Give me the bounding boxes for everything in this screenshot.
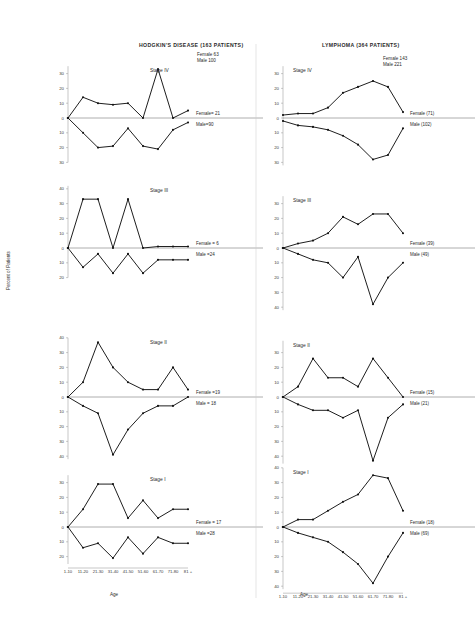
- data-point-female: [157, 245, 159, 247]
- series-line-female: [68, 484, 188, 527]
- data-point-female: [112, 104, 114, 106]
- data-point-male: [297, 124, 299, 126]
- data-point-female: [387, 377, 389, 379]
- y-tick-label: 0: [277, 395, 280, 400]
- data-point-female: [342, 501, 344, 503]
- y-tick-label: 30: [59, 350, 64, 355]
- data-point-female: [357, 386, 359, 388]
- data-point-female: [127, 517, 129, 519]
- male-count-label: Male (21): [410, 401, 430, 406]
- data-point-male: [387, 277, 389, 279]
- y-tick-label: 40: [274, 305, 279, 310]
- stage-label: Stage II: [150, 340, 167, 345]
- y-tick-label: 0: [62, 246, 65, 251]
- series-line-male: [68, 397, 188, 455]
- data-point-male: [82, 266, 84, 268]
- stage-label: Stage I: [293, 470, 309, 475]
- data-point-female: [402, 111, 404, 113]
- data-point-male: [187, 259, 189, 261]
- y-tick-label: 30: [274, 71, 279, 76]
- data-point-male: [282, 120, 284, 122]
- data-point-male: [372, 460, 374, 462]
- x-tick-label: 81 +: [399, 594, 408, 599]
- data-point-female: [372, 213, 374, 215]
- y-tick-label: 20: [274, 365, 279, 370]
- data-point-male: [112, 557, 114, 559]
- data-point-male: [357, 144, 359, 146]
- data-point-male: [357, 409, 359, 411]
- series-line-female: [68, 199, 188, 248]
- y-tick-label: 40: [274, 584, 279, 589]
- y-tick-label: 0: [277, 116, 280, 121]
- y-tick-label: 0: [277, 525, 280, 530]
- y-tick-label: 0: [62, 116, 65, 121]
- subplot-hodgkins-stage-iv: 3020100102030Stage IVFemale= 21Male=90: [59, 66, 263, 165]
- data-point-female: [112, 483, 114, 485]
- x-tick-label: 21-30: [308, 594, 319, 599]
- y-tick-label: 30: [59, 480, 64, 485]
- data-point-male: [157, 405, 159, 407]
- data-point-female: [187, 245, 189, 247]
- y-tick-label: 30: [274, 290, 279, 295]
- data-point-male: [142, 145, 144, 147]
- subplot-hodgkins-stage-iii: 2010010203040Stage IIIFemale = 6Male =24: [59, 186, 263, 280]
- x-tick-label: 31-40: [323, 594, 334, 599]
- x-tick-label: 51-60: [138, 569, 149, 574]
- x-tick-label: 21-30: [93, 569, 104, 574]
- y-tick-label: 10: [59, 101, 64, 106]
- y-tick-label: 20: [274, 275, 279, 280]
- y-tick-label: 20: [59, 554, 64, 559]
- data-point-male: [327, 409, 329, 411]
- data-point-male: [172, 542, 174, 544]
- data-point-female: [342, 216, 344, 218]
- series-line-male: [68, 248, 188, 273]
- data-point-female: [172, 245, 174, 247]
- series-line-male: [283, 121, 403, 159]
- data-point-male: [282, 247, 284, 249]
- series-line-female: [68, 342, 188, 397]
- data-point-male: [97, 253, 99, 255]
- data-point-male: [372, 303, 374, 305]
- data-point-female: [142, 389, 144, 391]
- data-point-male: [387, 556, 389, 558]
- data-point-male: [327, 129, 329, 131]
- data-point-female: [82, 508, 84, 510]
- data-point-female: [142, 117, 144, 119]
- y-tick-label: 40: [59, 454, 64, 459]
- female-count-label: Female (71): [410, 111, 435, 116]
- data-point-male: [127, 253, 129, 255]
- y-tick-label: 10: [59, 260, 64, 265]
- data-point-female: [282, 114, 284, 116]
- data-point-male: [297, 532, 299, 534]
- data-point-female: [82, 381, 84, 383]
- data-point-male: [342, 551, 344, 553]
- data-point-female: [372, 80, 374, 82]
- data-point-male: [187, 121, 189, 123]
- y-tick-label: 30: [274, 201, 279, 206]
- data-point-male: [387, 154, 389, 156]
- series-line-male: [68, 118, 188, 149]
- data-point-female: [327, 232, 329, 234]
- data-point-female: [357, 493, 359, 495]
- data-point-female: [357, 223, 359, 225]
- data-point-female: [97, 341, 99, 343]
- series-line-male: [68, 527, 188, 558]
- data-point-male: [282, 526, 284, 528]
- data-point-female: [187, 110, 189, 112]
- data-point-male: [97, 412, 99, 414]
- y-tick-label: 20: [274, 216, 279, 221]
- data-point-female: [97, 483, 99, 485]
- y-tick-label: 40: [274, 465, 279, 470]
- series-line-female: [68, 69, 188, 118]
- male-count-label: Male=90: [196, 122, 214, 127]
- series-line-male: [283, 248, 403, 304]
- data-point-female: [387, 477, 389, 479]
- figure-root: HODGKIN'S DISEASE (163 PATIENTS) LYMPHOM…: [0, 0, 475, 632]
- data-point-male: [127, 429, 129, 431]
- y-tick-label: 30: [59, 71, 64, 76]
- data-point-female: [387, 213, 389, 215]
- y-tick-label: 30: [274, 350, 279, 355]
- y-tick-label: 10: [274, 130, 279, 135]
- stage-label: Stage III: [150, 188, 168, 193]
- y-tick-label: 20: [59, 424, 64, 429]
